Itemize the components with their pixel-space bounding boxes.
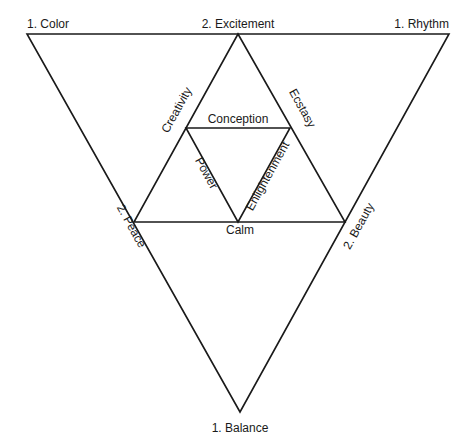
label-rhythm: 1. Rhythm (394, 17, 449, 31)
label-beauty: 2. Beauty (340, 200, 377, 251)
label-calm: Calm (226, 223, 254, 237)
label-peace: 2. Peace (114, 202, 149, 251)
label-color: 1. Color (27, 17, 69, 31)
label-conception: Conception (208, 112, 269, 126)
label-balance: 1. Balance (212, 421, 269, 435)
label-power: Power (192, 155, 221, 192)
label-enlightenment: Enlightenment (243, 139, 293, 213)
label-ecstasy: Ecstasy (286, 86, 319, 130)
label-excitement: 2. Excitement (202, 17, 275, 31)
triangle-diagram: 1. Color 1. Rhythm 1. Balance 2. Excitem… (0, 0, 473, 444)
